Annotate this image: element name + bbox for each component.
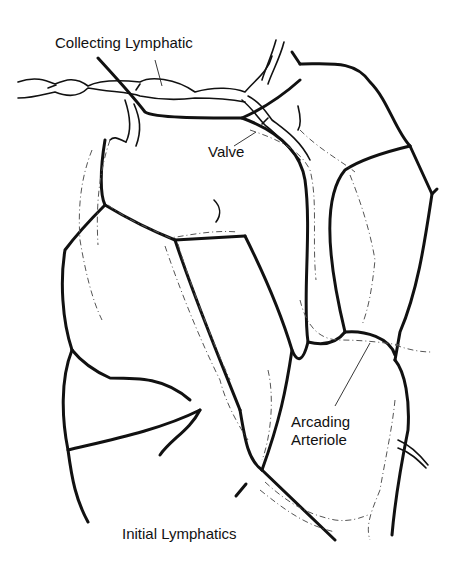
collecting-lymphatic-vessel [18, 40, 300, 146]
initial-lymphatics-label: Initial Lymphatics [122, 525, 237, 542]
collecting-lymphatic-label: Collecting Lymphatic [55, 34, 193, 51]
arcading-arteriole-vessel [79, 106, 432, 540]
initial-lymphatic-mesh [62, 52, 437, 540]
arcading-arteriole-label-line2: Arteriole [291, 431, 347, 448]
vessel-network-drawing [0, 0, 466, 579]
arcading-arteriole-label-line1: Arcading [291, 413, 350, 430]
lymphatic-diagram: Collecting Lymphatic Valve Arcading Arte… [0, 0, 466, 579]
valve-label: Valve [208, 143, 244, 160]
collecting-lymphatic-leader [155, 60, 162, 86]
arcading-arteriole-leader [335, 343, 370, 406]
